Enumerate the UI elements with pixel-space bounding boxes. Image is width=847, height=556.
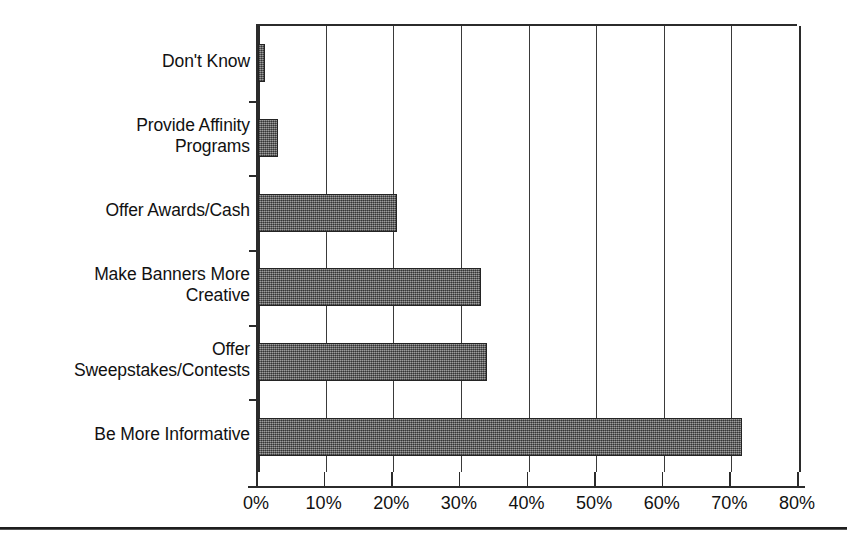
category-tick-4 (249, 399, 258, 401)
bar-2 (258, 194, 397, 232)
bar-chart-figure: Don't KnowProvide Affinity ProgramsOffer… (0, 0, 847, 556)
value-tick-50 (594, 472, 596, 487)
gridline-50 (596, 26, 597, 472)
category-tick-2 (249, 250, 258, 252)
gridline-60 (664, 26, 665, 472)
value-tick-0 (256, 472, 258, 487)
gridline-70 (731, 26, 732, 472)
value-tick-label-8: 80% (757, 492, 837, 514)
bar-3 (258, 268, 481, 306)
category-label-2: Offer Awards/Cash (10, 200, 250, 221)
gridline-0 (258, 26, 260, 472)
value-tick-30 (459, 472, 461, 487)
bar-1 (258, 119, 278, 157)
category-tick-3 (249, 325, 258, 327)
bar-5 (258, 418, 742, 456)
category-label-1: Provide Affinity Programs (10, 115, 250, 157)
value-tick-80 (797, 472, 799, 487)
category-label-4: Offer Sweepstakes/Contests (10, 339, 250, 381)
value-tick-40 (527, 472, 529, 487)
value-tick-70 (729, 472, 731, 487)
gridline-30 (461, 26, 462, 472)
bar-4 (258, 343, 487, 381)
gridline-10 (326, 26, 327, 472)
bar-0 (258, 44, 265, 82)
value-tick-60 (662, 472, 664, 487)
value-tick-20 (391, 472, 393, 487)
category-label-3: Make Banners More Creative (10, 264, 250, 306)
plot-area (256, 24, 797, 472)
gridline-80 (799, 26, 801, 472)
value-tick-10 (324, 472, 326, 487)
gridline-20 (393, 26, 394, 472)
gridline-40 (529, 26, 530, 472)
category-tick-0 (249, 101, 258, 103)
category-label-5: Be More Informative (10, 424, 250, 445)
category-axis: Don't KnowProvide Affinity ProgramsOffer… (10, 24, 250, 472)
category-label-0: Don't Know (10, 51, 250, 72)
bottom-rule (0, 527, 847, 530)
category-tick-1 (249, 175, 258, 177)
